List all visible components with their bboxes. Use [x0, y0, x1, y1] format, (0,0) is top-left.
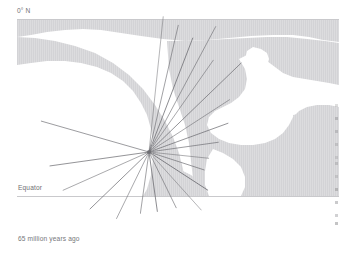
- equator-label: Equator: [18, 185, 42, 192]
- figure-caption: 65 million years ago: [18, 236, 80, 243]
- cropped-glyph-fragment: [335, 117, 338, 120]
- latitude-reference-line: [17, 19, 339, 20]
- cropped-glyph-fragment: [335, 130, 338, 133]
- cropped-glyph-fragment: [335, 222, 338, 225]
- latitude-label: 0° N: [17, 8, 31, 15]
- cropped-glyph-fragment: [335, 214, 338, 217]
- map-landmass-graphic: [17, 19, 339, 196]
- cropped-glyph-fragment: [335, 143, 338, 146]
- cropped-glyph-fragment: [335, 188, 338, 191]
- map-plate: [17, 19, 339, 196]
- cropped-glyph-fragment: [335, 201, 338, 204]
- cropped-adjacent-column-text: [334, 104, 339, 228]
- cropped-glyph-fragment: [335, 162, 338, 165]
- equator-reference-line: [17, 196, 339, 197]
- paleogeographic-map-figure: 0° N Equator 65 million years ago: [0, 0, 339, 255]
- cropped-glyph-fragment: [335, 156, 338, 159]
- cropped-glyph-fragment: [335, 175, 338, 178]
- cropped-glyph-fragment: [335, 104, 338, 107]
